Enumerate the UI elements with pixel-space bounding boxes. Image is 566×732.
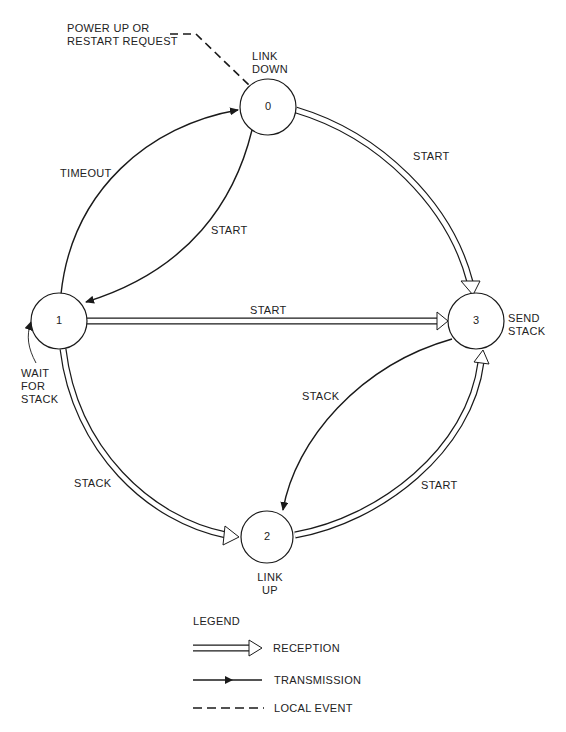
legend-local-event-label: LOCAL EVENT	[274, 702, 353, 715]
state-1-name: WAIT FOR STACK	[21, 367, 58, 406]
state-3-name: SEND STACK	[508, 312, 545, 338]
edge-label-timeout: TIMEOUT	[60, 167, 112, 180]
edge-label-start-0-1: START	[211, 224, 248, 237]
edge-label-start-1-3: START	[250, 304, 287, 317]
state-0-number: 0	[258, 100, 278, 112]
edge-label-stack-3-2: STACK	[302, 390, 339, 403]
local-event-label: POWER UP OR RESTART REQUEST	[67, 22, 178, 48]
edge-stack-1-to-2	[63, 349, 239, 545]
edge-label-stack-1-2: STACK	[74, 477, 111, 490]
edge-start-0-to-3	[296, 110, 480, 295]
local-event-power-up-edge	[170, 34, 250, 86]
state-1-number: 1	[49, 314, 69, 326]
state-diagram-canvas	[0, 0, 566, 732]
edge-label-start-2-3: START	[421, 479, 458, 492]
edge-label-start-0-3: START	[413, 150, 450, 163]
legend-transmission-arrowhead	[225, 676, 233, 684]
state-3-number: 3	[466, 314, 486, 326]
legend-reception-label: RECEPTION	[273, 642, 340, 655]
state-0-name: LINK DOWN	[252, 50, 288, 76]
edge-start-0-to-1	[86, 130, 252, 302]
edge-start-2-to-3	[295, 350, 489, 535]
legend-title: LEGEND	[193, 615, 240, 628]
state-2-number: 2	[257, 530, 277, 542]
edge-timeout-1-to-0	[61, 110, 238, 294]
legend-reception-symbol	[193, 640, 262, 656]
state-2-name: LINK UP	[255, 571, 285, 597]
legend-transmission-label: TRANSMISSION	[274, 674, 361, 687]
